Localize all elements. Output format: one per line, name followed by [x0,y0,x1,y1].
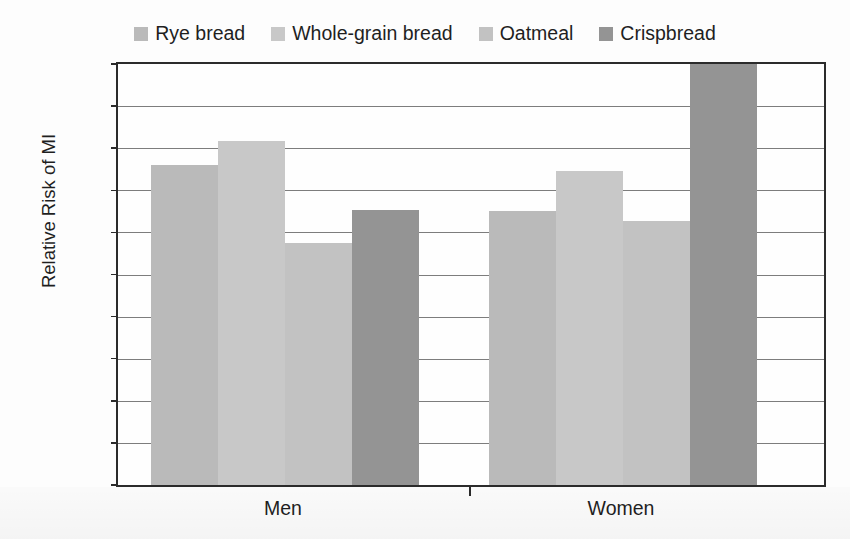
paper-texture [0,487,850,539]
legend-item-whole-grain-bread: Whole-grain bread [271,24,452,44]
bar [285,243,352,485]
bar-chart: Rye bread Whole-grain bread Oatmeal Cris… [0,0,850,539]
y-tick-mark [111,147,118,149]
y-tick-mark [111,400,118,402]
chart-legend: Rye bread Whole-grain bread Oatmeal Cris… [0,24,850,44]
y-tick-mark [111,358,118,360]
legend-label: Oatmeal [500,24,574,44]
legend-label: Crispbread [620,24,715,44]
plot-area: 0.60.650.70.750.80.850.90.9511.051.1 [116,62,826,487]
legend-label: Whole-grain bread [292,24,452,44]
y-tick-mark [111,190,118,192]
x-axis-category-label: Men [264,497,302,520]
y-tick-mark [111,484,118,486]
y-tick-mark [111,316,118,318]
y-axis-title: Relative Risk of MI [38,66,60,356]
bar-series-group [118,64,824,485]
bar [218,141,285,485]
legend-item-crispbread: Crispbread [599,24,715,44]
legend-item-rye-bread: Rye bread [134,24,245,44]
bar [352,210,419,485]
legend-swatch-icon [134,27,148,41]
legend-swatch-icon [479,27,493,41]
y-tick-mark [111,105,118,107]
legend-swatch-icon [599,27,613,41]
bar [690,64,757,485]
y-tick-mark [111,63,118,65]
x-axis-category-label: Women [588,497,655,520]
legend-item-oatmeal: Oatmeal [479,24,574,44]
legend-label: Rye bread [155,24,245,44]
bar [623,221,690,485]
x-axis-tick-mark [469,485,471,496]
bar [556,171,623,485]
legend-swatch-icon [271,27,285,41]
y-tick-mark [111,232,118,234]
y-tick-mark [111,274,118,276]
y-tick-mark [111,442,118,444]
bar [151,165,218,485]
bar [489,211,556,485]
